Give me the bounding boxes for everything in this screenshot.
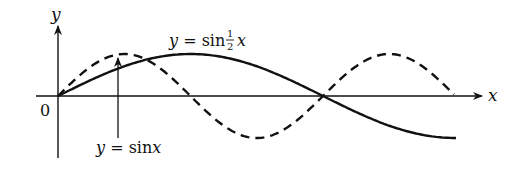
- x-axis-label: x: [488, 85, 498, 105]
- origin-label: 0: [40, 101, 50, 120]
- y-axis-label: y: [50, 4, 61, 24]
- sine-diagram: y x 0 y = sin 1 2 x y = sinx: [0, 0, 522, 169]
- svg-text:y = sin: y = sin: [168, 31, 225, 50]
- svg-text:2: 2: [227, 41, 233, 52]
- sin-x-label: y = sinx: [95, 138, 161, 157]
- svg-text:1: 1: [227, 28, 233, 39]
- sin-half-x-label: y = sin 1 2 x: [168, 28, 246, 52]
- svg-text:x: x: [237, 31, 246, 50]
